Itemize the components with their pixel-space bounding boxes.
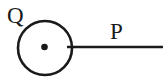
label-q: Q — [7, 3, 24, 28]
center-dot — [41, 44, 48, 51]
label-p: P — [110, 19, 123, 44]
physics-diagram-svg: Q P — [0, 0, 163, 80]
diagram-canvas: Q P — [0, 0, 163, 80]
